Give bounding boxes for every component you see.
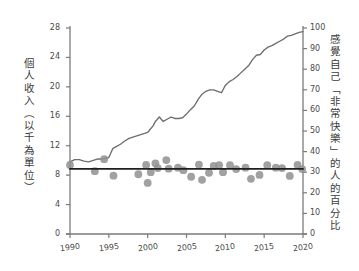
scatter-point	[110, 172, 118, 180]
y-tick-label-right: 0	[310, 229, 334, 238]
y-tick-label-right: 70	[310, 85, 334, 94]
axes-group	[66, 26, 307, 238]
series-group	[66, 32, 306, 187]
scatter-point	[66, 161, 74, 169]
scatter-point	[179, 166, 187, 174]
y-tick-label-right: 100	[310, 23, 334, 32]
y-tick-label-right: 90	[310, 44, 334, 53]
scatter-point	[134, 170, 142, 178]
scatter-point	[263, 161, 271, 169]
scatter-point	[142, 161, 150, 169]
scatter-point	[242, 164, 250, 172]
chart-container: 個人收入（以千為單位） 感覺自己「非常快樂」的人的百分比 04812162024…	[0, 0, 359, 271]
y-tick-label-right: 60	[310, 105, 334, 114]
y-tick-label-right: 80	[310, 64, 334, 73]
y-tick-label-right: 20	[310, 188, 334, 197]
y-tick-label-left: 16	[38, 111, 60, 120]
scatter-point	[286, 172, 294, 180]
y-tick-label-left: 0	[38, 229, 60, 238]
scatter-point	[198, 176, 206, 184]
y-tick-label-right: 30	[310, 167, 334, 176]
y-tick-label-left: 24	[38, 52, 60, 61]
y-tick-label-left: 20	[38, 82, 60, 91]
scatter-point	[247, 175, 255, 183]
scatter-point	[144, 179, 152, 187]
scatter-point	[162, 156, 170, 164]
y-tick-label-right: 10	[310, 208, 334, 217]
scatter-point	[187, 173, 195, 181]
y-tick-label-right: 40	[310, 147, 334, 156]
scatter-point	[215, 161, 223, 169]
y-tick-label-left: 12	[38, 141, 60, 150]
y-tick-label-right: 50	[310, 126, 334, 135]
y-tick-label-left: 8	[38, 170, 60, 179]
scatter-point	[195, 161, 203, 169]
y-tick-label-left: 4	[38, 200, 60, 209]
income-line	[70, 32, 303, 162]
scatter-point	[205, 169, 213, 177]
y-tick-label-left: 28	[38, 23, 60, 32]
scatter-point	[100, 155, 108, 163]
scatter-point	[256, 171, 264, 179]
